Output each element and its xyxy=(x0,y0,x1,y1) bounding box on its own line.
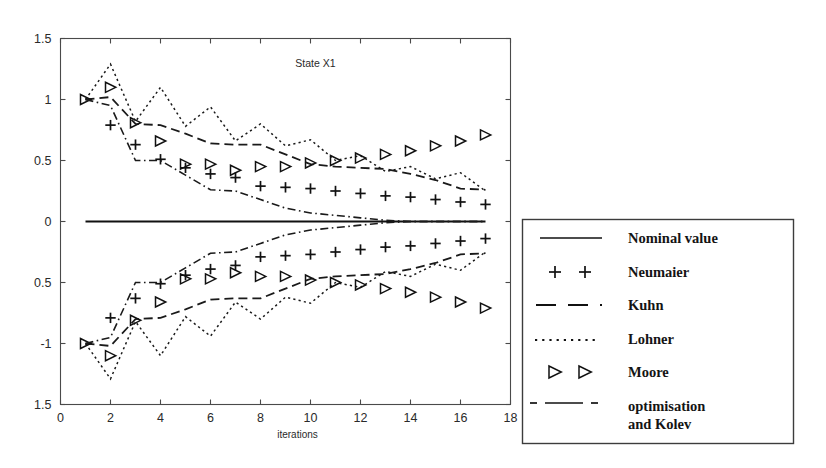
x-tick-label: 12 xyxy=(354,411,368,425)
series-kuhn-upper xyxy=(86,97,486,190)
y-tick-label: -1 xyxy=(40,337,51,351)
moore-marker xyxy=(106,351,116,361)
series-line xyxy=(86,222,486,344)
moore-marker xyxy=(256,162,266,172)
x-axis-label: iterations xyxy=(277,429,318,440)
x-tick-label: 14 xyxy=(404,411,418,425)
x-tick-label: 4 xyxy=(157,411,164,425)
moore-marker xyxy=(156,136,166,146)
moore-marker xyxy=(456,136,466,146)
series-line xyxy=(86,253,486,346)
data-series-group xyxy=(81,64,491,379)
series-kuhn-lower xyxy=(86,253,486,346)
x-tick-label: 8 xyxy=(257,411,264,425)
x-tick-label: 18 xyxy=(504,411,518,425)
moore-marker xyxy=(481,130,491,140)
legend-label: Kuhn xyxy=(628,297,663,313)
x-tick-label: 0 xyxy=(57,411,64,425)
chart-svg: 0246810121416181.5-10.500.511.5State X1i… xyxy=(0,0,826,468)
moore-marker xyxy=(206,159,216,169)
legend-label: Nominal value xyxy=(628,230,718,246)
series-optimisation-and-kolev-upper xyxy=(86,100,486,222)
x-tick-label: 6 xyxy=(207,411,214,425)
series-line xyxy=(86,100,486,222)
legend-label: Moore xyxy=(628,364,669,380)
moore-marker xyxy=(131,315,141,325)
series-neumaier-upper xyxy=(105,120,490,210)
moore-marker xyxy=(381,284,391,294)
chart-title: State X1 xyxy=(295,57,335,69)
moore-marker xyxy=(431,141,441,151)
moore-marker xyxy=(406,287,416,297)
y-tick-label: 0.5 xyxy=(34,276,51,290)
moore-marker xyxy=(131,118,141,128)
y-tick-label: 1 xyxy=(45,93,52,107)
moore-marker xyxy=(356,153,366,163)
series-line xyxy=(86,97,486,190)
series-line xyxy=(86,64,486,191)
series-moore-lower xyxy=(81,268,491,361)
moore-marker xyxy=(206,274,216,284)
moore-marker xyxy=(481,303,491,313)
figure-container: 0246810121416181.5-10.500.511.5State X1i… xyxy=(0,0,826,468)
legend-label: Neumaier xyxy=(628,264,690,280)
series-optimisation-and-kolev-lower xyxy=(86,222,486,344)
moore-marker xyxy=(356,280,366,290)
moore-marker xyxy=(256,271,266,281)
series-lohner-lower xyxy=(86,252,486,379)
legend-label-line2: and Kolev xyxy=(628,416,692,432)
x-tick-label: 10 xyxy=(304,411,318,425)
series-moore-upper xyxy=(81,82,491,175)
series-lohner-upper xyxy=(86,64,486,191)
legend-label: Lohner xyxy=(628,331,674,347)
y-tick-label: 1.5 xyxy=(34,398,51,412)
legend-label: optimisation xyxy=(628,398,705,414)
moore-marker xyxy=(431,292,441,302)
moore-marker xyxy=(406,146,416,156)
axis-labels-group: 0246810121416181.5-10.500.511.5State X1i… xyxy=(34,32,517,440)
y-tick-label: 1.5 xyxy=(34,32,51,46)
moore-marker xyxy=(156,297,166,307)
moore-marker xyxy=(456,297,466,307)
x-tick-label: 2 xyxy=(107,411,114,425)
y-tick-label: 0 xyxy=(45,215,52,229)
series-line xyxy=(86,252,486,379)
y-tick-label: 0.5 xyxy=(34,154,51,168)
moore-marker xyxy=(281,271,291,281)
legend-box[interactable]: Nominal valueNeumaierKuhnLohnerMooreopti… xyxy=(523,220,794,444)
series-neumaier-lower xyxy=(105,233,490,323)
moore-marker xyxy=(381,149,391,159)
moore-marker xyxy=(281,162,291,172)
moore-marker xyxy=(106,82,116,92)
x-tick-label: 16 xyxy=(454,411,468,425)
